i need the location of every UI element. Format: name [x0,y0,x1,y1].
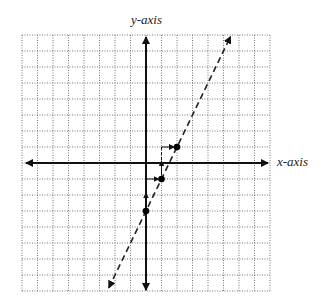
plotted-point [158,176,165,183]
y-axis-label: y-axis [131,12,162,28]
plotted-point [174,144,181,151]
plotted-point [143,208,150,215]
x-axis-label: x-axis [277,154,308,170]
coordinate-plane [0,0,324,306]
